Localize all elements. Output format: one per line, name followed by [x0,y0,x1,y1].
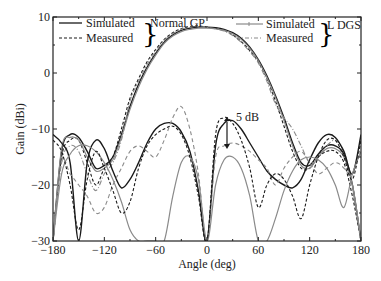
legend-group-l-dgs: L DGS [327,18,361,32]
y-tick-label: −20 [31,178,50,192]
series-line-4 [53,120,361,242]
y-tick-label: −10 [31,122,50,136]
legend-simulated-label-2: Simulated [266,17,315,31]
y-axis-title: Gain (dBi) [13,103,27,155]
series-line-3 [53,26,361,241]
x-tick-label: 120 [301,243,319,257]
x-tick-label: −60 [146,243,165,257]
x-tick-label: −120 [92,243,117,257]
series-line-0 [53,27,361,241]
x-tick-label: 180 [352,243,370,257]
legend-measured-label: Measured [86,31,133,45]
gain-chart: −180−120−60060120180100−10−20−30 Angle (… [0,0,381,281]
annotation-label: 5 dB [236,110,259,124]
arrow-down-icon [224,144,230,149]
legend-simulated-label: Simulated [86,16,135,30]
y-tick-label: 10 [38,10,50,24]
series-line-1 [53,26,361,241]
arrow-up-icon [224,117,230,121]
series-line-6 [53,106,361,241]
y-tick-label: 0 [44,66,50,80]
x-tick-label: 0 [204,243,210,257]
legend-measured-label-2: Measured [266,31,313,45]
legend-normal-gp: Simulated Measured } Normal GP [59,16,205,49]
series-line-2 [53,28,361,241]
axis-ticks [53,17,361,241]
plot-frame [53,17,361,241]
legend-l-dgs: Simulated Measured } L DGS [236,17,361,49]
x-tick-label: 60 [252,243,264,257]
plot-lines [53,26,361,245]
series-line-7 [53,117,361,242]
x-axis-title: Angle (deg) [178,257,236,271]
y-tick-label: −30 [31,234,50,248]
legend-group-normal-gp: Normal GP [150,16,205,30]
